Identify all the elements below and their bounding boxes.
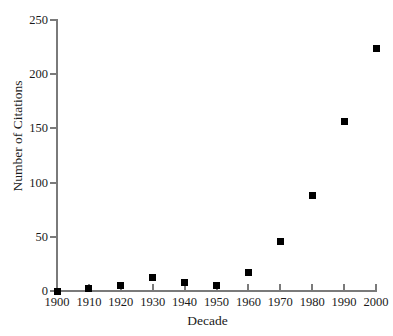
y-tick-mark [50, 236, 56, 238]
y-tick-label: 250 [0, 14, 48, 26]
y-tick-mark [50, 182, 56, 184]
x-tick-mark [343, 284, 345, 290]
x-tick-mark [279, 284, 281, 290]
data-point [309, 192, 316, 199]
x-tick-mark [375, 284, 377, 290]
y-tick-label: 50 [0, 231, 48, 243]
x-axis-title-text: Decade [187, 313, 227, 329]
x-tick-label: 2000 [354, 295, 393, 309]
x-axis-line [56, 290, 377, 292]
data-point [117, 282, 124, 289]
y-tick-mark [50, 19, 56, 21]
x-tick-mark [311, 284, 313, 290]
data-point [54, 288, 61, 295]
y-axis-title-text: Number of Citations [10, 81, 25, 192]
data-point [277, 238, 284, 245]
data-point [373, 45, 380, 52]
data-point [85, 285, 92, 292]
data-point [213, 282, 220, 289]
data-point [181, 279, 188, 286]
x-axis-title: Decade [0, 313, 393, 329]
y-axis-line [56, 19, 58, 292]
data-point [245, 269, 252, 276]
citations-scatter-chart: 050100150200250 190019101920193019401950… [0, 0, 393, 336]
data-point [341, 118, 348, 125]
x-tick-mark [152, 284, 154, 290]
y-tick-mark [50, 73, 56, 75]
data-point [149, 274, 156, 281]
x-tick-mark [247, 284, 249, 290]
y-axis-title: Number of Citations [10, 56, 26, 216]
y-tick-mark [50, 127, 56, 129]
